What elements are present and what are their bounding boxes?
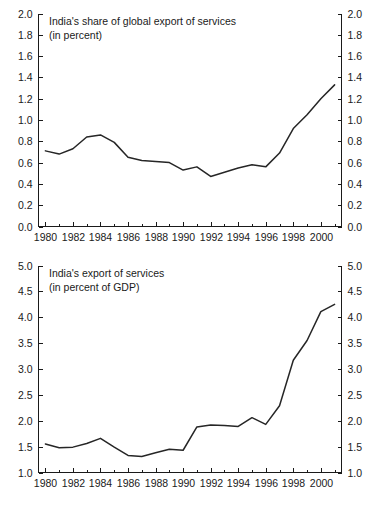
- x-axis-tick-label: 1992: [200, 477, 224, 489]
- y-axis-tick-label-left: 1.2: [18, 93, 33, 105]
- y-axis-tick-label-left: 0.2: [18, 199, 33, 211]
- y-axis-tick-label-right: 0.0: [348, 221, 363, 233]
- chart-title-bottom: India's export of services: [49, 267, 164, 279]
- y-axis-tick-label-left: 1.6: [18, 50, 33, 62]
- y-axis-tick-label-right: 4.5: [348, 285, 363, 297]
- x-axis-tick-label: 2000: [310, 477, 334, 489]
- x-axis-tick-label: 1988: [145, 477, 169, 489]
- x-axis-tick-label: 1998: [282, 231, 306, 243]
- data-series-line-top: [45, 85, 334, 177]
- y-axis-tick-label-right: 1.5: [348, 441, 363, 453]
- y-axis-tick-label-left: 1.0: [18, 467, 33, 479]
- x-axis-tick-label: 1998: [282, 477, 306, 489]
- axes-frame-bottom: [39, 266, 342, 473]
- chart-subtitle-top: (in percent): [49, 29, 102, 41]
- y-axis-tick-label-right: 2.0: [348, 8, 363, 20]
- y-axis-tick-label-right: 4.0: [348, 311, 363, 323]
- data-series-line-bottom: [45, 304, 334, 456]
- x-axis-tick-label: 1988: [145, 231, 169, 243]
- figure-two-line-charts: 0.00.00.20.20.40.40.60.60.80.81.01.01.21…: [0, 0, 380, 509]
- y-axis-tick-label-left: 0.4: [18, 178, 33, 190]
- chart-svg-top: 0.00.00.20.20.40.40.60.60.80.81.01.01.21…: [0, 0, 380, 255]
- y-axis-tick-label-left: 0.8: [18, 135, 33, 147]
- x-axis-tick-label: 1996: [255, 231, 279, 243]
- x-axis-tick-label: 1982: [62, 231, 86, 243]
- y-axis-tick-label-left: 4.5: [18, 285, 33, 297]
- y-axis-tick-label-right: 0.8: [348, 135, 363, 147]
- chart-subtitle-bottom: (in percent of GDP): [49, 281, 139, 293]
- x-axis-tick-label: 1980: [34, 477, 58, 489]
- y-axis-tick-label-left: 1.4: [18, 71, 33, 83]
- x-axis-tick-label: 1990: [172, 477, 196, 489]
- y-axis-tick-label-left: 1.5: [18, 441, 33, 453]
- y-axis-tick-label-left: 5.0: [18, 260, 33, 272]
- y-axis-tick-label-right: 1.0: [348, 114, 363, 126]
- tick-marks-top: [39, 15, 342, 228]
- x-axis-tick-label: 1986: [117, 477, 141, 489]
- y-axis-tick-label-right: 2.0: [348, 415, 363, 427]
- y-axis-tick-label-right: 5.0: [348, 260, 363, 272]
- y-axis-tick-label-left: 1.8: [18, 29, 33, 41]
- chart-title-top: India's share of global export of servic…: [49, 15, 236, 27]
- x-axis-tick-label: 1980: [34, 231, 58, 243]
- tick-marks-bottom: [39, 267, 342, 474]
- x-axis-tick-label: 1990: [172, 231, 196, 243]
- x-axis-tick-label: 1986: [117, 231, 141, 243]
- y-axis-tick-label-right: 1.6: [348, 50, 363, 62]
- chart-panel-export-percent-gdp: 1.01.01.51.52.02.02.52.53.03.03.53.54.04…: [0, 255, 380, 509]
- y-axis-tick-label-right: 1.4: [348, 71, 363, 83]
- y-axis-tick-label-left: 2.0: [18, 415, 33, 427]
- y-axis-tick-label-left: 1.0: [18, 114, 33, 126]
- chart-panel-share-of-global-export: 0.00.00.20.20.40.40.60.60.80.81.01.01.21…: [0, 0, 380, 255]
- y-axis-tick-label-left: 2.5: [18, 389, 33, 401]
- axes-frame-top: [39, 14, 342, 227]
- x-axis-tick-label: 2000: [310, 231, 334, 243]
- y-axis-tick-label-right: 0.4: [348, 178, 363, 190]
- x-axis-tick-label: 1994: [227, 477, 251, 489]
- tick-labels-bottom: 1.01.01.51.52.02.02.52.53.03.03.53.54.04…: [18, 260, 362, 488]
- y-axis-tick-label-left: 3.5: [18, 337, 33, 349]
- y-axis-tick-label-right: 1.0: [348, 467, 363, 479]
- x-axis-tick-label: 1996: [255, 477, 279, 489]
- tick-labels-top: 0.00.00.20.20.40.40.60.60.80.81.01.01.21…: [18, 8, 362, 242]
- y-axis-tick-label-right: 3.0: [348, 363, 363, 375]
- x-axis-tick-label: 1992: [200, 231, 224, 243]
- x-axis-tick-label: 1994: [227, 231, 251, 243]
- y-axis-tick-label-left: 0.0: [18, 221, 33, 233]
- y-axis-tick-label-right: 0.2: [348, 199, 363, 211]
- x-axis-tick-label: 1984: [89, 231, 113, 243]
- y-axis-tick-label-left: 0.6: [18, 157, 33, 169]
- y-axis-tick-label-right: 3.5: [348, 337, 363, 349]
- y-axis-tick-label-left: 4.0: [18, 311, 33, 323]
- y-axis-tick-label-right: 1.8: [348, 29, 363, 41]
- y-axis-tick-label-right: 1.2: [348, 93, 363, 105]
- y-axis-tick-label-left: 3.0: [18, 363, 33, 375]
- y-axis-tick-label-left: 2.0: [18, 8, 33, 20]
- x-axis-tick-label: 1984: [89, 477, 113, 489]
- chart-svg-bottom: 1.01.01.51.52.02.02.52.53.03.03.53.54.04…: [0, 255, 380, 509]
- y-axis-tick-label-right: 0.6: [348, 157, 363, 169]
- y-axis-tick-label-right: 2.5: [348, 389, 363, 401]
- x-axis-tick-label: 1982: [62, 477, 86, 489]
